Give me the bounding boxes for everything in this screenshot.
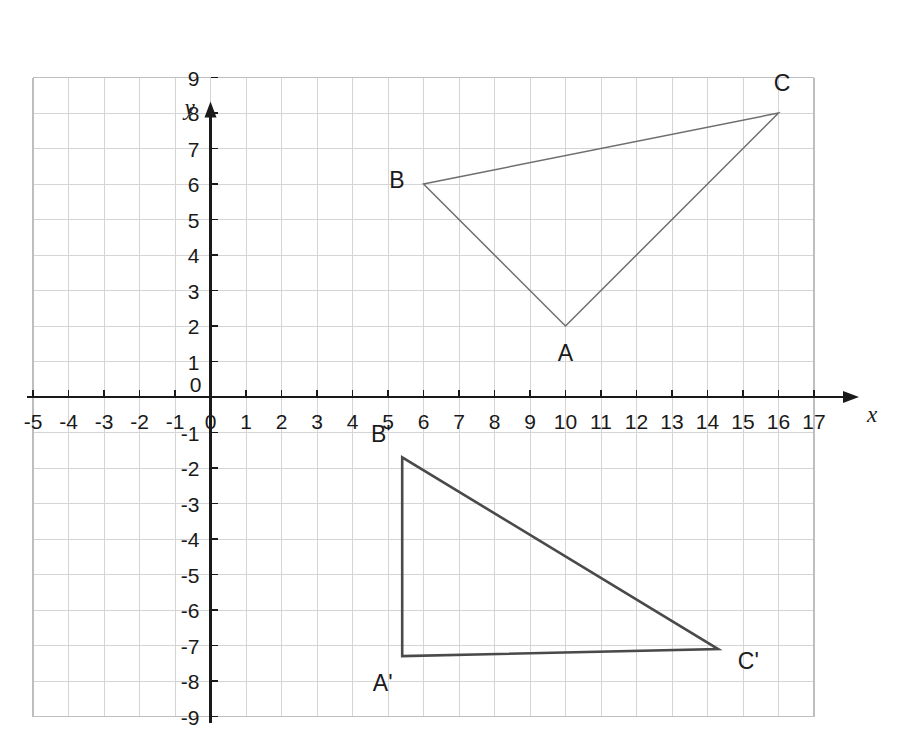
vertex-label-a: A: [558, 341, 573, 364]
coordinate-plane-figure: -5-4-3-2-1012345678910111213141516179876…: [0, 0, 898, 753]
x-axis-tick-label: -2: [130, 411, 149, 432]
x-axis-tick-label: -4: [59, 411, 78, 432]
y-axis-arrowhead: [205, 102, 217, 118]
vertex-label-c: C: [774, 71, 791, 94]
y-axis-tick-label: 1: [188, 351, 200, 372]
x-axis-tick-label: 7: [453, 411, 465, 432]
x-axis-tick-label: 13: [660, 411, 683, 432]
x-axis-tick-label: 10: [554, 411, 577, 432]
vertex-label-c-prime: C': [738, 650, 759, 673]
x-axis-tick-label: 17: [802, 411, 825, 432]
x-axis-tick-label: 14: [696, 411, 719, 432]
plot-canvas: [0, 0, 898, 753]
x-axis-tick-label: 11: [590, 411, 612, 432]
vertex-label-a-prime: A': [373, 671, 393, 694]
y-axis-tick-label: -9: [181, 706, 200, 727]
triangle-a-prime-b-prime-c-prime: [402, 457, 718, 656]
x-axis-tick-label: 2: [276, 411, 288, 432]
y-axis-tick-label: 7: [188, 138, 200, 159]
y-axis-tick-label: 3: [188, 280, 200, 301]
axes-group: [27, 78, 859, 723]
origin-label: 0: [190, 374, 202, 395]
x-axis-tick-label: 3: [311, 411, 323, 432]
y-axis-tick-label: 2: [188, 316, 200, 337]
x-axis-tick-label: 0: [205, 411, 217, 432]
x-axis-tick-label: 8: [489, 411, 501, 432]
y-axis-tick-label: 5: [188, 209, 200, 230]
x-axis-tick-label: 12: [625, 411, 648, 432]
y-axis-tick-label: 9: [188, 67, 200, 88]
y-axis-tick-label: -1: [181, 422, 200, 443]
y-axis-tick-label: -6: [181, 600, 200, 621]
x-axis-tick-label: 16: [767, 411, 790, 432]
x-axis-tick-label: -3: [95, 411, 114, 432]
x-axis-arrowhead: [843, 391, 859, 403]
x-axis-tick-label: 9: [524, 411, 536, 432]
y-axis-tick-label: -2: [181, 458, 200, 479]
y-axis-tick-label: -3: [181, 493, 200, 514]
y-axis-tick-label: 4: [188, 245, 200, 266]
x-axis-tick-label: 4: [347, 411, 359, 432]
y-axis-tick-label: -8: [181, 671, 200, 692]
x-axis-tick-label: -5: [24, 411, 43, 432]
x-axis-tick-label: 6: [418, 411, 430, 432]
x-axis-tick-label: 15: [731, 411, 754, 432]
x-axis-label: x: [867, 403, 877, 426]
y-axis-tick-label: -5: [181, 564, 200, 585]
y-axis-tick-label: -7: [181, 635, 200, 656]
y-axis-label: y: [185, 96, 195, 119]
vertex-label-b-prime: B': [371, 423, 391, 446]
vertex-label-b: B: [389, 169, 404, 192]
x-axis-tick-label: 1: [240, 411, 252, 432]
y-axis-tick-label: -4: [181, 529, 200, 550]
y-axis-tick-label: 6: [188, 174, 200, 195]
